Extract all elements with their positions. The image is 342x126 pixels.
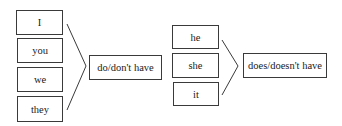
subject-label: you xyxy=(32,45,48,56)
subject-box-she: she xyxy=(172,53,219,78)
subject-box-you: you xyxy=(17,38,63,63)
subject-box-they: they xyxy=(17,96,63,122)
verb-box-do-dont-have: do/don't have xyxy=(89,55,162,80)
subject-label: we xyxy=(34,74,46,85)
subject-box-i: I xyxy=(16,10,63,35)
subject-box-we: we xyxy=(17,67,63,92)
subject-box-he: he xyxy=(172,25,219,49)
group2-chevron xyxy=(222,40,238,95)
subject-label: he xyxy=(191,32,201,43)
verb-box-does-doesnt-have: does/doesn't have xyxy=(243,53,327,78)
subject-label: she xyxy=(189,60,203,71)
subject-label: they xyxy=(31,104,49,115)
verb-label: do/don't have xyxy=(97,62,153,73)
subject-label: it xyxy=(193,89,199,100)
subject-box-it: it xyxy=(173,82,219,106)
group1-chevron xyxy=(67,24,86,110)
subject-label: I xyxy=(38,17,42,28)
verb-label: does/doesn't have xyxy=(248,60,322,71)
